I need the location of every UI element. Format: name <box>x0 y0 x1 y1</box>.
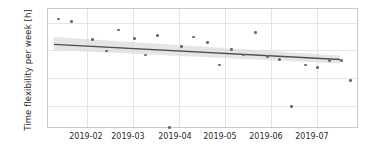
data-point <box>57 18 60 21</box>
data-point <box>340 59 343 62</box>
y-axis-label: Time flexibility per week [h] <box>23 0 37 140</box>
data-point <box>304 64 307 67</box>
data-point <box>254 31 257 34</box>
data-point <box>91 38 94 41</box>
data-point <box>133 37 136 40</box>
scatter-chart: Time flexibility per week [h] 140 120 10… <box>0 0 376 158</box>
data-point <box>156 34 159 37</box>
data-point <box>70 20 73 23</box>
data-point <box>316 66 319 69</box>
data-point <box>266 55 269 58</box>
regression-overlay <box>48 9 359 129</box>
data-point <box>168 126 171 129</box>
data-point <box>218 64 221 67</box>
data-point <box>206 41 209 44</box>
data-point <box>105 50 108 53</box>
data-point <box>290 105 293 108</box>
data-point <box>117 29 120 32</box>
data-point <box>349 79 352 82</box>
data-point <box>278 58 281 61</box>
x-axis-tick-2019-07: 2019-07 <box>282 132 342 141</box>
data-point <box>230 48 233 51</box>
confidence-band <box>54 37 340 64</box>
plot-area <box>47 8 358 128</box>
data-point <box>328 59 331 62</box>
data-point <box>192 36 195 39</box>
data-point <box>180 45 183 48</box>
